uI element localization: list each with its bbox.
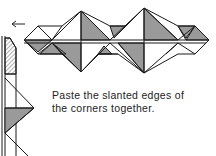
- folded-strip: [24, 8, 209, 73]
- instruction-caption: Paste the slanted edges of the corners t…: [52, 89, 216, 115]
- caption-line-1: Paste the slanted edges of: [52, 89, 216, 102]
- caption-line-2: the corners together.: [52, 102, 216, 115]
- vertical-strip: [2, 36, 34, 156]
- origami-diagram: [0, 0, 216, 156]
- left-arrow-icon: [12, 21, 25, 27]
